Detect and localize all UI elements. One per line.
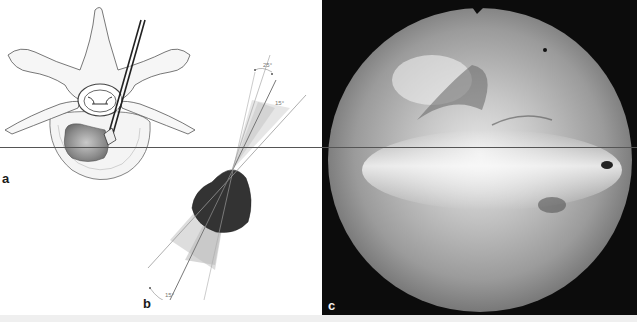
- endoscopic-view-circle: [322, 0, 637, 315]
- figure: 25° 15° 15°: [0, 0, 637, 322]
- panel-label-b: b: [143, 297, 151, 310]
- angle-label-top-outer: 25°: [263, 62, 272, 68]
- panel-label-a: a: [2, 172, 9, 185]
- panel-label-c: c: [328, 299, 335, 312]
- horizontal-reference-line: [0, 147, 637, 148]
- angle-label-bottom: 15°: [165, 292, 174, 298]
- angle-label-top-inner: 15°: [275, 100, 284, 106]
- endoscopic-photo: [322, 0, 637, 315]
- ray-line: [170, 80, 276, 300]
- bottom-margin: [0, 315, 637, 322]
- viewing-angle-diagram: [130, 0, 320, 300]
